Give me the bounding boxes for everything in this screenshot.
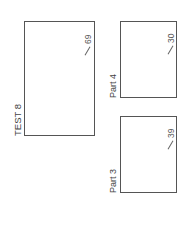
- test-max-score: 69: [83, 35, 93, 44]
- test-label: TEST 8: [12, 104, 23, 136]
- part-3-label: Part 3: [108, 169, 118, 193]
- part-4-max-score: 30: [166, 34, 176, 43]
- part-3-max-score: 39: [166, 129, 176, 138]
- part-4-label: Part 4: [108, 74, 118, 98]
